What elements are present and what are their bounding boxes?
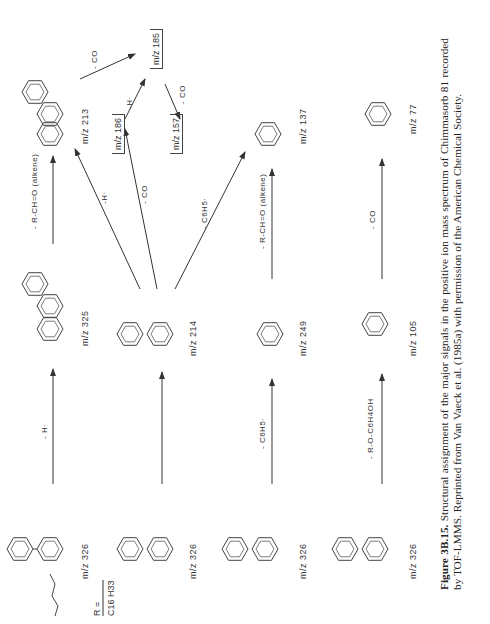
arrow-214-to-186 (125, 129, 157, 289)
ion-186-bracket: m/z 186 (112, 114, 125, 154)
mz-label-row3-parent: m/z 326 (298, 543, 308, 579)
mz-label-row4-parent: m/z 326 (408, 543, 418, 579)
loss-214-to-213: -H· (100, 191, 109, 204)
row4-product-structure (362, 313, 388, 336)
row1-parent-structure (7, 538, 63, 616)
mz-label-row1-parent: m/z 326 (80, 543, 90, 579)
mz-label-row3-product: m/z 249 (298, 320, 308, 356)
row1-final-structure (22, 81, 63, 146)
mz-label-row3-final: m/z 137 (298, 108, 308, 144)
row4-parent-structure (332, 538, 388, 561)
row3-parent-structure (222, 538, 278, 561)
arrow-214-to-137 (175, 152, 245, 289)
r-definition-rhs: C16 H33 (106, 580, 116, 616)
mz-label-row2-parent: m/z 326 (188, 543, 198, 579)
row3-product-structure (257, 323, 283, 346)
loss-row3-step2: - R-CH=O (alkene) (258, 174, 267, 249)
loss-row4-step2: - CO (368, 210, 377, 229)
loss-186-to-185: -H· (125, 96, 134, 109)
loss-213-to-185: - CO (90, 50, 99, 69)
rotated-page: R = C16 H33 m/z 326 m/z 325 m/z 213 m/z … (0, 0, 490, 624)
arrow-214-to-213 (75, 149, 140, 289)
loss-185-to-157: - CO (178, 85, 187, 104)
r-definition-lhs: R = (92, 602, 102, 616)
fragmentation-scheme (0, 0, 430, 624)
r-definition-value: C16 H33 (106, 580, 116, 616)
loss-row1-step1: - H· (40, 424, 49, 439)
mz-label-row4-product: m/z 105 (408, 320, 418, 356)
row1-product-structure (22, 273, 63, 341)
row2-parent-structure (117, 538, 173, 561)
mz-label-row1-product: m/z 325 (80, 310, 90, 346)
row4-final-structure (365, 103, 391, 126)
figure-caption: Figure 3B.15. Structural assignment of t… (438, 38, 463, 590)
ion-185-bracket: m/z 185 (150, 29, 163, 69)
figure-label: Figure 3B.15. (438, 525, 450, 590)
ion-157-bracket: m/z 157 (170, 114, 183, 154)
mz-label-row1-final: m/z 213 (80, 108, 90, 144)
figure-caption-text: Structural assignment of the major signa… (438, 38, 463, 590)
loss-row4-step1: - R-O-C6H4OH (366, 398, 375, 459)
mz-label-row2-product: m/z 214 (188, 320, 198, 356)
row3-final-structure (255, 123, 281, 146)
loss-row3-step1: - C6H5· (258, 417, 267, 449)
row2-product-structure (117, 323, 173, 346)
arrow-213-to-185 (80, 54, 135, 79)
loss-row1-step2: - R-CH=O (alkene) (30, 154, 39, 229)
loss-214-to-137: - C6H5· (200, 197, 209, 229)
loss-214-to-186: - CO (140, 185, 149, 204)
mz-label-row4-final: m/z 77 (408, 104, 418, 134)
r-definition: R = (92, 602, 102, 616)
